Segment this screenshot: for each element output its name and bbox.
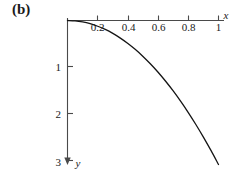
x-tick-label-0: 0.2 [91,21,105,33]
y-axis-arrow-icon [64,158,70,166]
x-tick-label-1: 0.4 [122,21,136,33]
x-tick-label-3: 0.8 [182,21,196,33]
y-tick-label-0: 1 [56,61,62,73]
y-tick-label-2: 3 [56,156,62,168]
plot-area: 0.2 0.4 0.6 0.8 1 1 2 3 x y [0,0,232,173]
x-tick-label-4: 1 [216,21,222,33]
y-axis-ticks [68,67,74,161]
data-curve [68,21,219,165]
x-axis-label: x [223,9,229,21]
x-axis-ticks [98,16,219,21]
x-tick-label-2: 0.6 [152,21,166,33]
figure-panel-b: (b) 0.2 0.4 0.6 0.8 1 1 2 3 [0,0,232,173]
y-tick-label-1: 2 [56,108,62,120]
y-axis-label: y [75,157,81,169]
